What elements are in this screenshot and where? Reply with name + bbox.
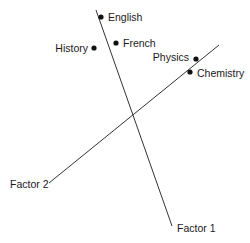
factor2-axis-line (49, 45, 219, 183)
point-label: English (108, 11, 143, 23)
point-marker-icon (113, 40, 118, 45)
point-label: History (55, 42, 88, 54)
point-marker-icon (91, 45, 96, 50)
factor2-axis-label: Factor 2 (10, 178, 49, 190)
point-history: History (55, 42, 96, 54)
point-physics: Physics (153, 51, 199, 63)
point-marker-icon (187, 69, 192, 74)
point-label: Chemistry (197, 67, 245, 79)
point-marker-icon (98, 14, 103, 19)
factor-diagram: Factor 1Factor 2 EnglishHistoryFrenchPhy… (0, 0, 250, 243)
point-english: English (98, 11, 142, 23)
point-french: French (113, 37, 155, 49)
factor1-axis-label: Factor 1 (177, 222, 216, 234)
points-layer: EnglishHistoryFrenchPhysicsChemistry (55, 11, 245, 79)
point-label: French (123, 37, 156, 49)
point-marker-icon (193, 56, 198, 61)
point-chemistry: Chemistry (187, 67, 245, 79)
point-label: Physics (153, 51, 189, 63)
